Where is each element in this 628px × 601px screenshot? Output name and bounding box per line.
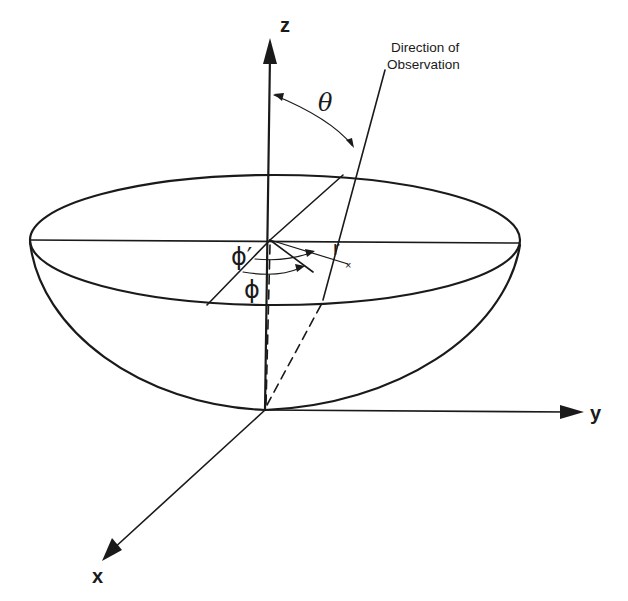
theta-label: θ <box>318 89 333 117</box>
rim-back-radius-line <box>270 175 343 240</box>
phi-prime-arc <box>255 253 310 260</box>
hemisphere-diagram: × z y x θ ϕ′ ϕ r Direction of Observatio… <box>0 0 628 601</box>
phi-prime-label: ϕ′ <box>231 243 252 271</box>
y-axis-arrowhead <box>560 405 584 419</box>
theta-arrowhead-left <box>274 93 284 101</box>
r-endpoint-marker: × <box>345 259 351 271</box>
hemisphere-bowl-outline <box>30 242 520 410</box>
z-axis-label: z <box>280 14 290 36</box>
r-label: r <box>333 237 340 259</box>
theta-arc <box>274 95 352 145</box>
projection-line <box>270 240 313 272</box>
y-axis-line <box>265 410 568 412</box>
z-axis-arrowhead <box>263 38 277 64</box>
x-axis-line <box>112 410 265 550</box>
x-axis-label: x <box>92 565 103 587</box>
observation-caption-line2: Observation <box>387 57 460 72</box>
observation-hidden-segment <box>267 305 321 405</box>
y-axis-label: y <box>590 402 602 424</box>
x-axis-arrowhead <box>102 538 122 561</box>
observation-caption-line1: Direction of <box>391 40 460 55</box>
phi-label: ϕ <box>244 276 260 304</box>
